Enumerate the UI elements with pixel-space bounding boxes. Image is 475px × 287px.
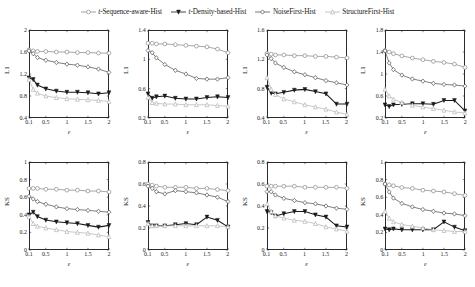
x-tick-label: 0.5 [42,251,50,257]
plot-area [267,30,347,118]
x-axis-label: ε [29,260,109,267]
x-tick-label: 0.1 [263,251,271,257]
series-seq_aware [146,41,230,54]
plot-area [267,162,347,250]
chart-legend: t-Sequence-aware-Histt-Density-based-His… [0,2,475,22]
x-tick-label: 2 [226,251,229,257]
y-tick-label: 0.8 [1,93,27,99]
x-tick-label: 2 [464,119,467,125]
x-tick-label: 1.5 [203,119,211,125]
subplot-usairport-l1: USairport L1L10.40.81.21.620.10.511.52ε [0,22,119,154]
y-tick-label: 0.2 [120,225,146,231]
subplot-bitcoin-l1: Bitcoin L1L10.40.81.21.60.10.511.52ε [238,22,357,154]
y-axis-ticks: 0.20.611.41.8 [356,22,383,126]
series-noise_first [383,49,467,89]
x-tick-label: 1.5 [440,251,448,257]
x-tick-label: 2 [108,119,111,125]
y-tick-label: 1.4 [120,27,146,33]
plot-area [29,30,109,118]
legend-entry-3[interactable]: NoiseFirst-Hist [255,8,315,16]
x-tick-label: 1.5 [440,119,448,125]
y-axis-ticks: 00.20.40.60.8 [119,154,146,258]
y-axis-ticks: 00.20.40.60.81 [0,154,27,258]
subplot-enron-ks: Enron KSKS00.20.40.60.810.10.511.52ε [356,154,475,286]
legend-marker-triangle-down-filled-icon [171,8,186,16]
y-tick-label: 2 [1,27,27,33]
y-tick-label: 1 [120,56,146,62]
legend-entry-4[interactable]: StructureFirst-Hist [325,8,395,16]
x-tick-label: 1.5 [84,251,92,257]
x-tick-label: 0.5 [42,119,50,125]
legend-label: StructureFirst-Hist [342,8,394,16]
y-tick-label: 1.2 [239,56,265,62]
y-tick-label: 1.6 [1,49,27,55]
series-seq_aware [27,187,111,194]
y-tick-label: 0.8 [239,159,265,165]
x-tick-label: 1 [184,251,187,257]
y-tick-label: 0.4 [1,115,27,121]
x-tick-label: 2 [108,251,111,257]
x-axis-label: ε [267,260,347,267]
series-seq_aware [265,52,349,60]
legend-entry-1[interactable]: t-Sequence-aware-Hist [81,8,162,16]
x-tick-label: 0.1 [382,119,390,125]
y-tick-label: 1 [357,71,383,77]
x-tick-label: 1.5 [322,251,330,257]
legend-label: t-Sequence-aware-Hist [98,8,162,16]
x-tick-label: 0.5 [280,251,288,257]
x-tick-label: 1.5 [203,251,211,257]
series-canvas [385,30,465,118]
x-tick-label: 1 [303,119,306,125]
y-tick-label: 0 [239,247,265,253]
series-canvas [385,162,465,250]
y-tick-label: 0.8 [120,159,146,165]
x-tick-label: 1 [65,251,68,257]
x-tick-label: 0.1 [263,119,271,125]
legend-marker-diamond-open-icon [255,8,270,16]
series-noise_first [383,182,467,218]
plot-area [29,162,109,250]
x-tick-label: 2 [345,251,348,257]
plot-area [148,30,228,118]
subplot-usairport-ks: USairport KSKS00.20.40.60.810.10.511.52ε [0,154,119,286]
x-tick-label: 0.5 [398,251,406,257]
series-canvas [29,30,109,118]
x-axis-label: ε [385,128,465,135]
plot-area [148,162,228,250]
y-tick-label: 0.2 [120,115,146,121]
y-tick-label: 0.8 [357,177,383,183]
legend-entry-2[interactable]: t-Density-based-Hist [171,8,246,16]
series-seq_aware [146,182,230,192]
subplot-enron-l1: Enron L1L10.20.611.41.80.10.511.52ε [356,22,475,154]
series-seq_aware [383,182,467,197]
y-tick-label: 0.4 [239,115,265,121]
y-tick-label: 0.6 [239,181,265,187]
x-tick-label: 0.1 [144,119,152,125]
y-axis-ticks: 0.40.81.21.6 [238,22,265,126]
y-axis-ticks: 0.40.81.21.62 [0,22,27,126]
series-noise_first [27,194,111,214]
y-axis-ticks: 00.20.40.60.8 [238,154,265,258]
y-axis-ticks: 00.20.40.60.81 [356,154,383,258]
legend-label: NoiseFirst-Hist [273,8,316,16]
y-tick-label: 0.6 [357,194,383,200]
series-seq_aware [383,48,467,69]
series-noise_first [265,190,349,212]
x-tick-label: 0.1 [382,251,390,257]
x-axis-label: ε [29,128,109,135]
y-tick-label: 0.4 [1,212,27,218]
y-tick-label: 0.6 [357,93,383,99]
x-tick-label: 0.1 [25,251,33,257]
y-tick-label: 0 [120,247,146,253]
series-density_based [265,210,349,230]
y-tick-label: 0.4 [120,203,146,209]
y-tick-label: 1.8 [357,27,383,33]
y-tick-label: 0.2 [357,115,383,121]
y-tick-label: 0.6 [1,194,27,200]
y-tick-label: 0.6 [120,181,146,187]
y-tick-label: 1 [357,159,383,165]
y-tick-label: 1 [1,159,27,165]
plot-area [385,30,465,118]
legend-marker-triangle-up-open-icon [325,8,340,16]
legend-label: t-Density-based-Hist [189,8,247,16]
